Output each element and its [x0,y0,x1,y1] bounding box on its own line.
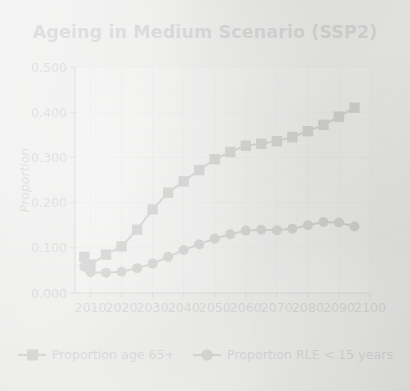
data-point-marker [116,241,126,251]
data-point-marker [179,245,189,255]
chart-legend: Proportion age 65+ Proportion RLE < 15 y… [0,347,410,362]
data-point-marker [101,268,111,278]
data-point-marker [101,249,111,259]
data-point-marker [241,140,251,150]
x-axis-tick-label: 2030 [137,300,169,315]
data-point-marker [148,259,158,269]
data-point-marker [178,176,188,186]
data-point-marker [318,217,328,227]
data-point-marker [334,112,344,122]
data-point-marker [287,132,297,142]
x-axis-tick-label: 2050 [199,300,231,315]
data-point-marker [303,220,313,230]
legend-item-proportion-rle-under-15: Proportion RLE < 15 years [192,347,393,362]
data-point-marker [225,229,235,239]
data-point-marker [117,267,127,277]
data-point-marker [287,224,297,234]
legend-label: Proportion RLE < 15 years [227,347,393,362]
y-axis-tick-label: 0.200 [31,195,67,210]
data-point-marker [318,120,328,130]
legend-label: Proportion age 65+ [52,347,175,362]
data-point-marker [334,217,344,227]
data-point-marker [241,226,251,236]
x-axis-tick-label: 2060 [230,300,262,315]
y-axis-tick-label: 0.400 [31,105,67,120]
y-axis-tick-label: 0.100 [31,240,67,255]
plot-background [75,67,370,293]
data-point-marker [349,222,359,232]
legend-item-proportion-age-65: Proportion age 65+ [17,347,175,362]
x-axis-tick-label: 2080 [292,300,324,315]
data-point-marker [210,154,220,164]
y-axis-title: Proportion [17,148,32,213]
data-point-marker [303,126,313,136]
data-point-marker [132,225,142,235]
data-point-marker [225,147,235,157]
data-point-marker [256,139,266,149]
y-axis-tick-label: 0.300 [31,150,67,165]
data-point-marker [272,225,282,235]
data-point-marker [163,187,173,197]
data-point-marker [210,234,220,244]
data-point-marker [194,239,204,249]
data-point-marker [272,136,282,146]
data-point-marker [349,102,359,112]
data-point-marker [256,225,266,235]
data-point-marker [132,263,142,273]
x-axis-tick-label: 2040 [168,300,200,315]
x-axis-tick-label: 2070 [261,300,293,315]
data-point-marker [163,252,173,262]
chart-figure: Ageing in Medium Scenario (SSP2) 0.0000.… [0,0,410,391]
x-axis-tick-label: 2020 [106,300,138,315]
legend-marker-circle-icon [192,348,222,362]
legend-marker-square-icon [17,348,47,362]
data-point-marker [147,204,157,214]
x-axis-tick-label: 2090 [323,300,355,315]
x-axis-tick-label: 2010 [74,300,106,315]
y-axis-tick-label: 0.000 [31,286,67,301]
plot-area: 0.0000.1000.2000.3000.4000.5002010202020… [0,0,410,391]
data-point-marker [86,267,96,277]
x-axis-tick-label: 2100 [354,300,386,315]
data-point-marker [194,165,204,175]
y-axis-tick-label: 0.500 [31,60,67,75]
